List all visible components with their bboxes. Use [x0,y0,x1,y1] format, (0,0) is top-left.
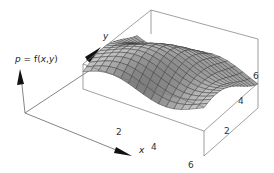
x-tick-label: 2 [116,127,122,137]
x-axis-line [25,113,126,154]
y-axis-label: y [102,31,109,41]
y-tick-label: 2 [224,126,230,136]
x-axis-arrow-icon [114,147,132,156]
y-tick-label: 6 [253,71,259,81]
surface-mesh [83,36,258,110]
p-axis-label: p = f(x,y) [14,54,58,64]
x-axis-label: x [138,145,145,155]
x-tick-label: 6 [188,160,194,170]
p-axis-arrow-icon [17,69,24,85]
p-rest: = f( [21,54,41,64]
y-tick-label: 4 [238,96,244,106]
surface-plot: p = f(x,y) y x 246246 [0,0,274,173]
x-tick-label: 4 [151,142,157,152]
paren: ) [54,54,58,64]
